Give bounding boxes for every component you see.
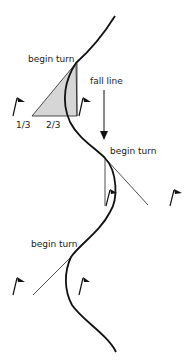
label-one-third: 1/3 bbox=[16, 120, 30, 130]
label-begin-turn-mid: begin turn bbox=[110, 146, 157, 156]
label-two-thirds: 2/3 bbox=[46, 120, 60, 130]
flag-icon bbox=[79, 97, 91, 116]
turn-guide-diagonal-mid bbox=[105, 158, 148, 205]
fall-line-arrowhead-icon bbox=[100, 131, 108, 140]
ski-turn-diagram: begin turn fall line 1/3 2/3 begin turn … bbox=[0, 0, 189, 364]
label-begin-turn-low: begin turn bbox=[31, 239, 78, 249]
flag-icon bbox=[13, 277, 25, 295]
ski-path bbox=[65, 16, 116, 352]
flag-icon bbox=[170, 189, 182, 206]
label-begin-turn-top: begin turn bbox=[28, 54, 75, 64]
flag-icon bbox=[13, 97, 25, 116]
turn-triangle-top bbox=[32, 63, 77, 116]
label-fall-line: fall line bbox=[90, 76, 123, 86]
flag-icon bbox=[79, 277, 90, 295]
